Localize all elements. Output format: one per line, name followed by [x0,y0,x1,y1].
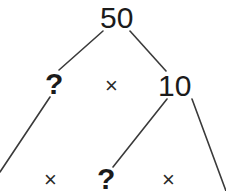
edge-ten-to-lower-unknown [113,99,167,167]
tree-diagram-canvas: 50 ? × 10 × ? × [0,0,226,191]
edge-left-unknown-to-clipped-node [0,97,50,172]
edge-root-to-right-child [130,31,166,71]
node-level1-operator: × [105,75,118,97]
node-level2-operator-right: × [162,169,175,191]
node-lower-unknown[interactable]: ? [97,164,115,191]
edge-ten-to-clipped-right-node [192,99,226,191]
edge-root-to-left-child [59,31,103,70]
node-left-unknown[interactable]: ? [45,69,63,99]
node-right-value[interactable]: 10 [158,71,191,101]
node-root-value[interactable]: 50 [100,3,133,33]
node-level2-operator-left: × [44,169,57,191]
